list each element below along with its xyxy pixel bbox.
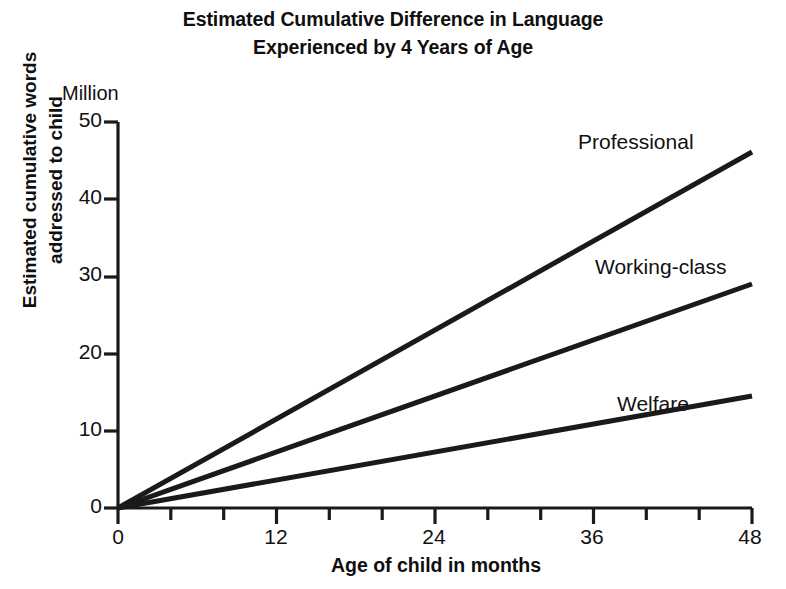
- series-line-working-class: [118, 284, 752, 508]
- chart-figure: Estimated Cumulative Difference in Langu…: [0, 0, 786, 589]
- x-axis-ticks: [118, 508, 752, 524]
- y-axis-ticks: [104, 122, 118, 508]
- plot-area: [0, 0, 786, 589]
- series-line-professional: [118, 152, 752, 508]
